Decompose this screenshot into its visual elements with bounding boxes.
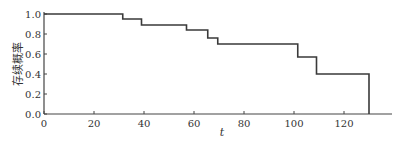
x-tick-label: 100 [284,118,303,129]
y-tick-label: 1.0 [25,9,41,20]
y-axis-label: 存续概率 [11,42,25,86]
survival-chart: 0.00.20.40.60.81.0 存续概率 020406080100120 … [0,0,407,145]
y-tick-label: 0.4 [25,69,41,80]
survival-step-curve [44,14,369,114]
y-tick-label: 0.2 [25,89,41,100]
y-tick-label: 0.6 [25,49,41,60]
x-axis-label: t [220,126,225,139]
x-tick-label: 120 [334,118,353,129]
y-tick-label: 0.8 [25,29,41,40]
x-tick-label: 60 [188,118,201,129]
x-tick-label: 80 [238,118,251,129]
x-tick-label: 0 [41,118,47,129]
x-axis: 020406080100120 t [41,111,392,139]
y-tick-label: 0.0 [25,109,41,120]
y-axis: 0.00.20.40.60.81.0 存续概率 [11,9,47,120]
x-tick-label: 40 [138,118,151,129]
x-tick-label: 20 [88,118,101,129]
